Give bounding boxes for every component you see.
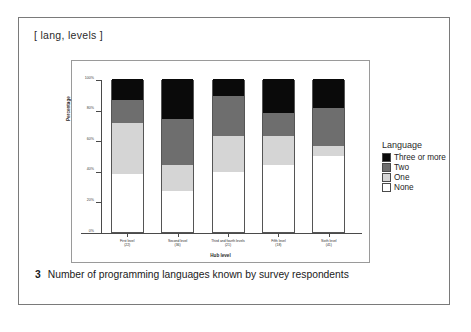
x-axis-title: Hub level (72, 253, 369, 258)
bar-segment-three (213, 79, 244, 96)
legend-swatch-icon (382, 173, 391, 182)
y-axis-tick: 20% (96, 202, 101, 203)
stacked-bar (111, 80, 144, 233)
y-axis-title: Percentage (66, 96, 71, 121)
x-label-count: (22) (120, 243, 135, 247)
x-axis-tick (127, 233, 128, 237)
legend-swatch-icon (382, 153, 391, 162)
y-axis-tick: 100% (96, 80, 101, 81)
legend-item-label: Two (394, 163, 409, 172)
x-label-count: (36) (168, 243, 187, 247)
bar-segment-none (112, 174, 143, 232)
y-axis-tick-label: 100% (85, 77, 94, 81)
y-axis-tick: 60% (96, 141, 101, 142)
figure-page: [ lang, levels ] 0%20%40%60%80%100% Perc… (0, 0, 471, 332)
bar-segment-one (263, 136, 294, 165)
bar-segment-three (112, 79, 143, 100)
caption-number: 3 (35, 269, 41, 280)
x-axis-tick (178, 233, 179, 237)
bar-segment-two (263, 113, 294, 136)
x-axis-tick-label: Fifth level(18) (271, 239, 286, 248)
x-axis-tick (228, 233, 229, 237)
legend-items: Three or moreTwoOneNone (382, 153, 466, 192)
x-label-count: (21) (211, 243, 245, 247)
legend-item[interactable]: None (382, 183, 466, 192)
legend-title: Language (382, 140, 466, 150)
x-axis-tick (278, 233, 279, 237)
y-axis-tick-label: 0% (89, 230, 94, 234)
bar-segment-three (263, 79, 294, 113)
chart-legend: Language Three or moreTwoOneNone (382, 140, 466, 193)
legend-item[interactable]: Two (382, 163, 466, 172)
legend-item[interactable]: One (382, 173, 466, 182)
bar-segment-two (313, 108, 344, 146)
y-axis-tick: 40% (96, 172, 101, 173)
y-axis-tick-label: 60% (87, 138, 94, 142)
y-axis-tick: 0% (96, 233, 101, 234)
legend-item-label: None (394, 183, 414, 192)
bar-segment-one (313, 146, 344, 155)
x-axis-tick-label: Third and fourth levels(21) (211, 239, 245, 248)
stacked-bar (262, 80, 295, 233)
bar-segment-none (162, 191, 193, 232)
y-axis-tick-label: 40% (87, 168, 94, 172)
bar-segment-two (112, 100, 143, 123)
bar-segment-two (213, 96, 244, 136)
chart-panel: 0%20%40%60%80%100% Percentage First leve… (71, 60, 370, 263)
x-axis-tick-label: Sixth level(41) (321, 239, 336, 248)
legend-item-label: Three or more (394, 153, 446, 162)
y-axis-tick-label: 80% (87, 107, 94, 111)
bar-segment-none (263, 165, 294, 232)
y-axis-tick-label: 20% (87, 199, 94, 203)
figure-caption: 3Number of programming languages known b… (35, 268, 439, 283)
x-axis-tick (329, 233, 330, 237)
stacked-bar (161, 80, 194, 233)
x-axis-tick-label: First level(22) (120, 239, 135, 248)
x-label-count: (41) (321, 243, 336, 247)
y-axis-tick: 80% (96, 111, 101, 112)
bar-segment-one (213, 136, 244, 173)
legend-item[interactable]: Three or more (382, 153, 466, 162)
plot-area (102, 80, 354, 233)
x-axis-line (81, 233, 362, 234)
legend-swatch-icon (382, 163, 391, 172)
bar-segment-three (313, 79, 344, 108)
bar-segment-none (213, 172, 244, 232)
caption-text: Number of programming languages known by… (48, 269, 349, 280)
stacked-bar (312, 80, 345, 233)
bar-segment-none (313, 156, 344, 233)
legend-item-label: One (394, 173, 409, 182)
x-axis-tick-label: Second level(36) (168, 239, 187, 248)
figure-header-tag: [ lang, levels ] (34, 29, 103, 41)
bar-segment-one (162, 165, 193, 191)
legend-swatch-icon (382, 183, 391, 192)
x-label-count: (18) (271, 243, 286, 247)
stacked-bar (212, 80, 245, 233)
bar-segment-one (112, 123, 143, 173)
figure-frame: [ lang, levels ] 0%20%40%60%80%100% Perc… (18, 17, 450, 305)
bar-segment-three (162, 79, 193, 119)
bar-segment-two (162, 119, 193, 165)
